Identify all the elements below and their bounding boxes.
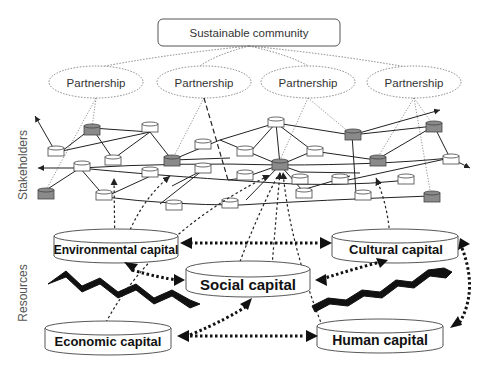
- resources-label: Resources: [16, 262, 30, 324]
- stakeholder-node-highlighted: [426, 121, 442, 132]
- top-node: Sustainable community: [158, 19, 340, 46]
- stakeholder-node: [195, 139, 211, 149]
- stakeholder-node-highlighted: [38, 188, 54, 199]
- stakeholder-node-highlighted: [424, 191, 440, 202]
- stakeholder-node: [96, 190, 112, 200]
- stakeholder-node: [48, 146, 64, 156]
- capital-label: Social capital: [200, 276, 296, 293]
- stakeholder-node: [195, 163, 211, 173]
- stakeholder-node-highlighted: [164, 155, 180, 166]
- capital-label: Human capital: [332, 332, 428, 348]
- capital-label: Environmental capital: [54, 243, 179, 257]
- stakeholder-node: [142, 167, 158, 177]
- top-links: [95, 46, 412, 68]
- stakeholder-node: [222, 198, 238, 208]
- top-node-label: Sustainable community: [190, 27, 309, 39]
- partnership-label: Partnership: [67, 77, 126, 89]
- stakeholder-node: [355, 190, 371, 200]
- partnership-label: Partnership: [385, 77, 444, 89]
- stakeholder-node: [166, 200, 182, 210]
- stakeholders-label: Stakeholders: [16, 127, 30, 203]
- stakeholder-node: [398, 174, 414, 184]
- stakeholder-node: [105, 155, 121, 165]
- capital-label: Economic capital: [55, 334, 162, 349]
- partnership-label: Partnership: [175, 77, 234, 89]
- stakeholder-node-highlighted: [345, 129, 361, 140]
- stakeholder-node: [332, 174, 348, 184]
- stakeholder-node: [74, 161, 90, 171]
- stakeholder-node-highlighted: [272, 159, 288, 170]
- stakeholder-node: [237, 170, 253, 180]
- capital-label: Cultural capital: [349, 242, 443, 257]
- stakeholder-node: [237, 146, 253, 156]
- stakeholder-node: [443, 154, 459, 164]
- stakeholder-node: [268, 117, 284, 127]
- stakeholder-node: [307, 146, 323, 156]
- stakeholder-node: [292, 174, 308, 184]
- stakeholder-node: [296, 188, 312, 198]
- stakeholder-node: [142, 122, 158, 132]
- stakeholder-node-highlighted: [84, 124, 100, 135]
- partnership-label: Partnership: [279, 77, 338, 89]
- sustainable-community-diagram: Sustainable community Partnership Partne…: [0, 0, 490, 371]
- stakeholder-node-highlighted: [370, 155, 386, 166]
